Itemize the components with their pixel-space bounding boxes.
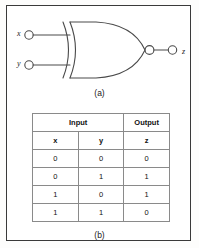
input-terminal-y (25, 61, 33, 69)
truth-table: Input Output x y z 0 0 0 0 1 1 1 0 (32, 113, 170, 222)
cell-y: 0 (78, 186, 124, 204)
table-row: 1 1 0 (33, 204, 170, 222)
cell-z: 1 (124, 186, 170, 204)
table-column-header-row: x y z (33, 132, 170, 150)
column-header-y: y (78, 132, 124, 150)
caption-a: (a) (0, 88, 199, 98)
table-row: 0 1 1 (33, 168, 170, 186)
cell-y: 1 (78, 204, 124, 222)
cell-z: 0 (124, 150, 170, 168)
gate-back-arc (70, 22, 76, 78)
output-terminal-z (168, 46, 176, 54)
cell-y: 0 (78, 150, 124, 168)
cell-x: 0 (33, 168, 79, 186)
cell-x: 1 (33, 186, 79, 204)
inversion-bubble (145, 46, 154, 55)
column-header-x: x (33, 132, 79, 150)
group-header-input: Input (33, 114, 124, 132)
xor-outer-arc (63, 22, 69, 78)
input-label-x: x (17, 29, 21, 38)
gate-body (70, 22, 145, 78)
caption-b: (b) (0, 230, 199, 240)
cell-x: 0 (33, 150, 79, 168)
table-group-header-row: Input Output (33, 114, 170, 132)
cell-x: 1 (33, 204, 79, 222)
input-terminal-x (25, 31, 33, 39)
column-header-z: z (124, 132, 170, 150)
input-label-y: y (17, 59, 21, 68)
group-header-output: Output (124, 114, 170, 132)
output-label-z: z (182, 47, 185, 56)
table-row: 1 0 1 (33, 186, 170, 204)
table-row: 0 0 0 (33, 150, 170, 168)
cell-y: 1 (78, 168, 124, 186)
logic-gate-figure: x y z (a) Input Output x y z 0 0 0 0 1 (0, 0, 199, 248)
cell-z: 1 (124, 168, 170, 186)
cell-z: 0 (124, 204, 170, 222)
